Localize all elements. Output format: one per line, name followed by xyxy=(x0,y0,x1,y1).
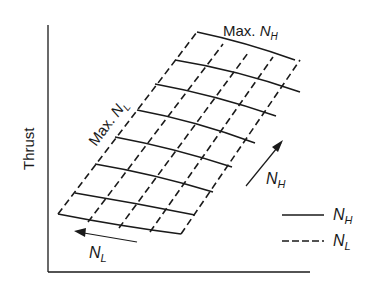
max-nl-label: Max. NL xyxy=(85,96,133,150)
y-axis-label: Thrust xyxy=(20,127,37,170)
nh-line xyxy=(75,193,195,215)
legend: NH NL xyxy=(282,206,353,252)
nl-line xyxy=(150,57,273,232)
legend-nh-label: NH xyxy=(333,206,353,226)
nl-arrow-label: NL xyxy=(89,244,107,264)
nl-line-max xyxy=(58,32,197,214)
thrust-map-diagram: Thrust Max. NH Max. NL NH NL xyxy=(0,0,377,289)
max-nh-label: Max. NH xyxy=(223,22,279,42)
nh-arrow-label: NH xyxy=(266,170,286,190)
nl-line-min xyxy=(181,60,300,234)
arrowhead-icon xyxy=(74,228,86,237)
legend-nl-label: NL xyxy=(333,232,351,252)
nh-line xyxy=(137,110,255,143)
arrowhead-icon xyxy=(272,140,283,152)
nl-increase-arrow xyxy=(74,228,137,242)
nl-line xyxy=(119,53,248,228)
nh-line xyxy=(155,84,276,116)
axes xyxy=(48,25,310,272)
